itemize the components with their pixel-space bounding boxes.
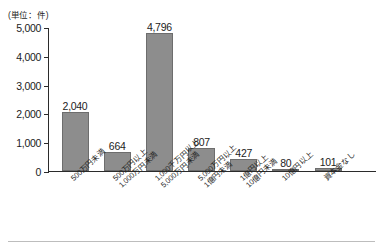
y-axis-tick-label: 4,000 [16,51,41,63]
bar-value-label: 2,040 [63,100,88,112]
y-axis-tick-label: 5,000 [16,22,41,34]
y-axis-tick-label: 0 [35,166,41,178]
unit-caption: (単位：件) [8,8,48,20]
y-axis-tick-mark [44,172,49,173]
bar-value-label: 4,796 [147,21,172,33]
y-axis-line [48,28,49,172]
y-axis-tick-mark [44,57,49,58]
y-axis-tick-mark [44,114,49,115]
bar-chart: (単位：件) 01,0002,0003,0004,0005,000 2,0406… [0,0,383,249]
y-axis-tick-mark [44,86,49,87]
y-axis-tick-label: 3,000 [16,80,41,92]
y-axis-tick-label: 1,000 [16,137,41,149]
y-axis-tick-mark [44,28,49,29]
bar-value-label: 664 [109,140,126,152]
bottom-divider [8,241,375,242]
y-axis-tick-label: 2,000 [16,108,41,120]
y-axis-tick-mark [44,143,49,144]
